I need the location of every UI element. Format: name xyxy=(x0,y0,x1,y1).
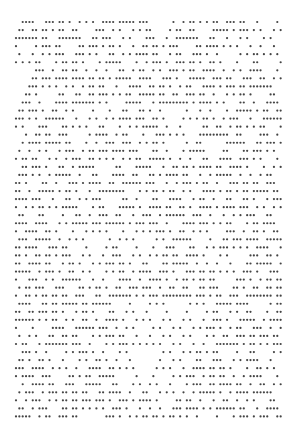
cell-dot xyxy=(115,407,117,409)
cell-dot xyxy=(142,222,144,224)
cell-dot xyxy=(45,262,47,264)
cell-dot xyxy=(162,230,164,232)
cell-dot xyxy=(213,327,215,329)
cell-dot xyxy=(82,101,84,103)
cell-dot xyxy=(55,101,57,103)
cell-dot xyxy=(95,359,97,361)
cell-dot xyxy=(176,37,178,39)
cell-dot xyxy=(102,77,104,79)
cell-dot xyxy=(256,85,258,87)
cell-dot xyxy=(249,375,251,377)
cell-dot xyxy=(192,69,194,71)
cell-dot xyxy=(276,303,278,305)
cell-dot xyxy=(89,85,91,87)
cell-dot xyxy=(243,77,245,79)
cell-dot xyxy=(129,287,131,289)
cell-dot xyxy=(189,254,191,256)
cell-dot xyxy=(65,367,67,369)
cell-dot xyxy=(32,109,34,111)
cell-dot xyxy=(48,142,50,144)
cell-dot xyxy=(119,214,121,216)
cell-dot xyxy=(176,279,178,281)
cell-dot xyxy=(105,375,107,377)
cell-dot xyxy=(233,29,235,31)
cell-dot xyxy=(132,327,134,329)
cell-dot xyxy=(25,198,27,200)
cell-dot xyxy=(18,287,20,289)
cell-dot xyxy=(229,262,231,264)
cell-dot xyxy=(132,383,134,385)
cell-dot xyxy=(102,134,104,136)
cell-dot xyxy=(152,246,154,248)
cell-dot xyxy=(112,142,114,144)
cell-dot xyxy=(253,150,255,152)
cell-dot xyxy=(189,303,191,305)
cell-dot xyxy=(273,319,275,321)
cell-dot xyxy=(105,214,107,216)
cell-dot xyxy=(189,206,191,208)
cell-dot xyxy=(273,238,275,240)
cell-dot xyxy=(239,53,241,55)
cell-dot xyxy=(146,287,148,289)
cell-dot xyxy=(79,262,81,264)
cell-dot xyxy=(25,230,27,232)
cell-dot xyxy=(22,214,24,216)
cell-dot xyxy=(246,190,248,192)
cell-dot xyxy=(122,319,124,321)
cell-dot xyxy=(176,262,178,264)
cell-dot xyxy=(72,391,74,393)
cell-dot xyxy=(169,101,171,103)
cell-dot xyxy=(48,399,50,401)
cell-dot xyxy=(162,295,164,297)
cell-dot xyxy=(102,37,104,39)
cell-dot xyxy=(48,391,50,393)
cell-dot xyxy=(125,351,127,353)
cell-dot xyxy=(273,270,275,272)
cell-dot xyxy=(48,254,50,256)
cell-dot xyxy=(172,174,174,176)
cell-dot xyxy=(85,383,87,385)
cell-dot xyxy=(273,407,275,409)
cell-dot xyxy=(233,415,235,417)
cell-dot xyxy=(266,198,268,200)
cell-dot xyxy=(219,158,221,160)
cell-dot xyxy=(270,303,272,305)
cell-dot xyxy=(256,407,258,409)
cell-dot xyxy=(266,335,268,337)
cell-dot xyxy=(256,142,258,144)
cell-dot xyxy=(249,359,251,361)
cell-dot xyxy=(142,69,144,71)
cell-dot xyxy=(256,53,258,55)
cell-dot xyxy=(182,61,184,63)
cell-dot xyxy=(233,287,235,289)
cell-dot xyxy=(203,375,205,377)
cell-dot xyxy=(65,126,67,128)
cell-dot xyxy=(239,37,241,39)
cell-dot xyxy=(136,126,138,128)
cell-dot xyxy=(156,61,158,63)
cell-dot xyxy=(132,174,134,176)
cell-dot xyxy=(119,367,121,369)
cell-dot xyxy=(249,45,251,47)
cell-dot xyxy=(75,391,77,393)
cell-dot xyxy=(92,150,94,152)
cell-dot xyxy=(159,327,161,329)
cell-dot xyxy=(209,109,211,111)
cell-dot xyxy=(122,343,124,345)
cell-dot xyxy=(95,287,97,289)
cell-dot xyxy=(122,77,124,79)
cell-dot xyxy=(35,399,37,401)
cell-dot xyxy=(280,287,282,289)
cell-dot xyxy=(69,142,71,144)
cell-dot xyxy=(270,399,272,401)
cell-dot xyxy=(259,279,261,281)
cell-dot xyxy=(58,142,60,144)
cell-dot xyxy=(249,343,251,345)
cell-dot xyxy=(266,174,268,176)
cell-dot xyxy=(239,174,241,176)
cell-dot xyxy=(42,85,44,87)
cell-dot xyxy=(32,77,34,79)
cell-dot xyxy=(62,69,64,71)
cell-dot xyxy=(223,303,225,305)
cell-dot xyxy=(72,230,74,232)
